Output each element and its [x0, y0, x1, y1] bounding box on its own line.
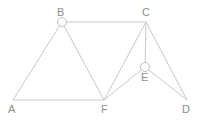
graph-edge-c-f: [104, 22, 146, 100]
graph-node-marker-b: [58, 18, 67, 27]
graph-edge-c-e: [145, 22, 146, 67]
graph-edge-b-f: [62, 22, 104, 100]
graph-node-label-f: F: [101, 104, 108, 115]
graph-node-label-d: D: [182, 104, 190, 115]
graph-edge-c-d: [146, 22, 187, 100]
node-marker-layer: [58, 18, 150, 72]
graph-node-label-a: A: [8, 104, 15, 115]
graph-node-label-b: B: [57, 7, 64, 18]
graph-edge-e-f: [104, 67, 145, 100]
graph-node-label-c: C: [142, 7, 150, 18]
edge-layer: [13, 22, 187, 100]
graph-edge-a-b: [13, 22, 62, 100]
graph-node-label-e: E: [141, 72, 148, 83]
graph-diagram: ABCDEF: [0, 0, 211, 125]
graph-edge-e-d: [145, 67, 187, 100]
